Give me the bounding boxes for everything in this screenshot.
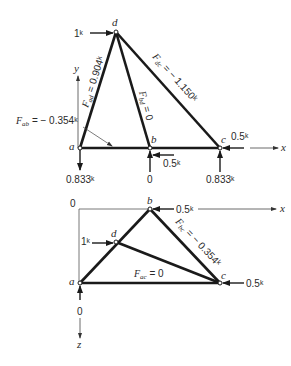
joint-a: [78, 146, 82, 150]
joint-b: [148, 146, 152, 150]
force-label-ab: Fab = − 0.354ᵏ: [15, 115, 78, 128]
load-label-b: 0.5ᵏ: [163, 158, 181, 169]
node-label-b: b: [151, 133, 157, 145]
node-label-c-bottom: c: [221, 269, 226, 281]
bottom-view: 0 x z b d a c 1ᵏ 0.5ᵏ 0.5ᵏ 0: [69, 194, 285, 350]
z-axis-label: z: [76, 338, 82, 350]
joint-a-bottom: [78, 281, 82, 285]
y-axis-label: y: [73, 62, 79, 74]
member-dc: [116, 32, 220, 148]
x-axis-label: x: [280, 141, 286, 153]
origin-label: 0: [70, 198, 76, 209]
truss-diagram: y x d a b c 1ᵏ 0.5ᵏ 0.5ᵏ 0.833ᵏ 0: [0, 0, 291, 366]
joint-d: [114, 30, 118, 34]
joint-c-bottom: [218, 281, 222, 285]
force-label-bc: Fbc = − 0.354ᵏ: [171, 215, 223, 270]
joint-b-bottom: [148, 207, 152, 211]
svg-text:Fbc = − 0.354ᵏ: Fbc = − 0.354ᵏ: [171, 215, 223, 270]
joint-d-bottom: [114, 240, 118, 244]
node-label-b-bottom: b: [147, 194, 153, 206]
reaction-label-b: 0: [147, 174, 153, 185]
joint-c: [218, 146, 222, 150]
load-label-c: 0.5ᵏ: [231, 131, 249, 142]
force-label-ac: Fac = 0: [133, 268, 164, 281]
node-label-a: a: [69, 140, 75, 152]
load-label-c-bottom: 0.5ᵏ: [246, 278, 264, 289]
load-label-b-bottom: 0.5ᵏ: [176, 204, 194, 215]
reaction-label-a: 0.833ᵏ: [66, 174, 95, 185]
node-label-d-bottom: d: [111, 227, 117, 239]
x-axis-label-bottom: x: [279, 202, 285, 214]
force-label-ad: Fad = 0.904ᵏ: [79, 54, 108, 110]
node-label-c: c: [221, 133, 226, 145]
reaction-label-a-bottom: 0: [77, 306, 83, 317]
node-label-a-bottom: a: [69, 275, 75, 287]
reaction-label-c: 0.833ᵏ: [206, 174, 235, 185]
svg-text:Fad = 0.904ᵏ: Fad = 0.904ᵏ: [79, 54, 108, 110]
top-view: y x d a b c 1ᵏ 0.5ᵏ 0.5ᵏ 0.833ᵏ 0: [15, 16, 286, 185]
load-label-d-bottom: 1ᵏ: [81, 236, 91, 247]
node-label-d: d: [112, 16, 118, 28]
leader-line-ab: [83, 127, 112, 146]
load-label-d: 1ᵏ: [74, 28, 84, 39]
